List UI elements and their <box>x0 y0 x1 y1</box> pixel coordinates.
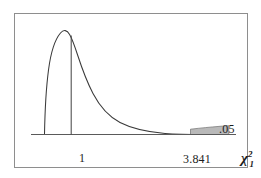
chi-symbol: χ <box>241 150 248 166</box>
chi-superscript-2: 2 <box>248 149 253 159</box>
x-axis-title-chi-square: χ21 <box>241 150 254 169</box>
tick-label-critical-value: 3.841 <box>183 153 211 165</box>
chi-subscript-1: 1 <box>249 159 254 169</box>
chi-square-density-curve <box>45 31 229 135</box>
chi-square-plot <box>15 14 247 167</box>
chi-square-figure: 1 3.841 .05 χ21 <box>0 0 261 178</box>
figure-frame: 1 3.841 .05 χ21 <box>14 13 248 168</box>
tick-label-1: 1 <box>79 152 85 164</box>
tail-area-label: .05 <box>219 123 235 135</box>
